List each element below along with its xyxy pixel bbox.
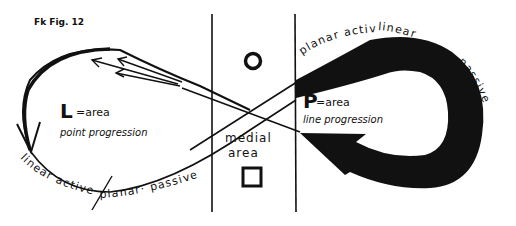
left-subtitle: point progression [59, 127, 148, 138]
top-curve-label-1: planar active [0, 0, 377, 57]
crossing-line-down [182, 88, 300, 132]
bottom-curve-label-2: planar· passive [99, 168, 200, 201]
right-thick-loop-arrow [296, 37, 483, 188]
figure-12-diagram: Fk Fig. 12 medial area L =area point pro… [0, 0, 516, 226]
right-subtitle: line progression [303, 114, 383, 125]
figure-title: Fk Fig. 12 [34, 17, 84, 27]
left-equation: =area [76, 106, 110, 119]
right-equation: =area [316, 96, 350, 109]
medial-label: medial [225, 131, 272, 145]
arrows-group [92, 57, 182, 86]
square-symbol [243, 168, 261, 186]
area-label: area [228, 146, 259, 160]
circle-symbol [246, 54, 261, 69]
right-divider-line [295, 14, 296, 212]
letter-L: L [60, 99, 73, 123]
bottom-curve-label-1: linear active [18, 151, 96, 198]
